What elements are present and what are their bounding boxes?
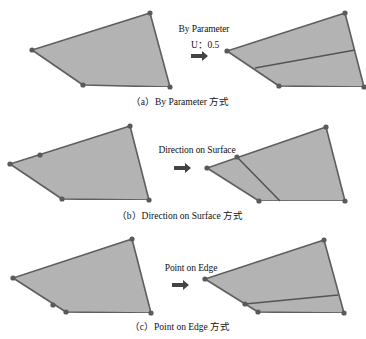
panel-a-before-shape	[29, 10, 172, 89]
vertex-point	[242, 301, 247, 306]
surface-polygon	[32, 13, 170, 87]
surface-polygon	[207, 127, 345, 201]
operation-label-c: Point on Edge	[165, 263, 218, 273]
vertex-point	[255, 309, 260, 314]
vertex-point	[10, 275, 15, 280]
vertex-point	[276, 83, 281, 88]
caption-c: （c）Point on Edge 方式	[130, 319, 230, 333]
vertex-point	[80, 82, 85, 87]
vertex-point	[37, 152, 42, 157]
vertex-point	[234, 154, 239, 159]
panel-b-before-shape	[7, 123, 151, 202]
vertex-point	[256, 198, 261, 203]
panel-b-after-shape	[204, 124, 347, 203]
vertex-point	[341, 310, 346, 315]
vertex-point	[204, 165, 209, 170]
panel-c-before-shape	[10, 236, 153, 315]
vertex-point	[224, 48, 229, 53]
vertex-point	[321, 237, 326, 242]
vertex-point	[147, 10, 152, 15]
panel-c-after-shape	[202, 237, 346, 315]
vertex-point	[129, 236, 134, 241]
vertex-point	[127, 123, 132, 128]
surface-polygon	[13, 239, 151, 313]
vertex-point	[50, 302, 55, 307]
arrow-icon	[191, 51, 208, 61]
operation-label-a: By Parameter	[179, 24, 230, 34]
panel-a-after-shape	[224, 10, 366, 89]
caption-a: （a）By Parameter 方式	[131, 94, 230, 108]
arrow-icon	[172, 280, 189, 290]
vertex-point	[148, 310, 153, 315]
surface-polygon	[227, 13, 364, 87]
vertex-point	[167, 84, 172, 89]
arrow-icon	[174, 163, 191, 173]
vertex-point	[342, 10, 347, 15]
vertex-point	[59, 196, 64, 201]
parameter-label-a: U：0.5	[191, 37, 219, 51]
vertex-point	[7, 161, 12, 166]
surface-polygon	[10, 126, 149, 200]
vertex-point	[146, 197, 151, 202]
caption-b: （b）Direction on Surface 方式	[117, 208, 243, 222]
operation-label-b: Direction on Surface	[158, 145, 235, 155]
figure-canvas	[0, 0, 366, 339]
vertex-point	[202, 276, 207, 281]
vertex-point	[342, 198, 347, 203]
vertex-point	[29, 47, 34, 52]
vertex-point	[63, 309, 68, 314]
vertex-point	[323, 124, 328, 129]
surface-polygon	[205, 240, 344, 313]
